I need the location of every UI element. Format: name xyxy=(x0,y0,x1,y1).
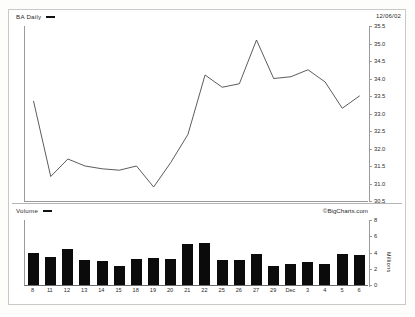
quote-date-label: 12/06/02 xyxy=(376,13,401,19)
price-panel-header: BA Daily 12/06/02 xyxy=(12,12,402,26)
x-axis-tick-label: 25 xyxy=(214,287,230,293)
volume-y-tickmark xyxy=(370,220,372,221)
volume-bar xyxy=(268,266,279,285)
price-y-axis: 35.535.034.534.033.533.032.532.031.531.0… xyxy=(369,26,403,202)
panel-divider xyxy=(12,203,402,204)
price-y-tick-label: 32.5 xyxy=(374,128,385,134)
x-axis-tick-label: 3 xyxy=(300,287,316,293)
x-axis-tick-label: 22 xyxy=(196,287,212,293)
x-axis-tick-label: 18 xyxy=(128,287,144,293)
volume-y-tickmark xyxy=(370,236,372,237)
volume-plot-area xyxy=(24,220,368,286)
volume-bar xyxy=(114,266,125,286)
price-y-tick-label: 31.0 xyxy=(374,181,385,187)
volume-bar xyxy=(337,254,348,285)
price-panel: BA Daily 12/06/02 35.535.034.534.033.533… xyxy=(12,12,402,204)
price-y-tick-label: 35.5 xyxy=(374,23,385,29)
x-axis-tick-label: 20 xyxy=(162,287,178,293)
x-axis-tick-label: 8 xyxy=(25,287,41,293)
volume-bar xyxy=(97,261,108,285)
price-y-tickmark xyxy=(370,26,372,27)
volume-panel: Volume ©BigCharts.com Millions 86420 811… xyxy=(12,206,402,306)
price-y-tickmark xyxy=(370,149,372,150)
volume-y-tick-label: 2 xyxy=(374,266,377,272)
x-axis-tick-label: 14 xyxy=(93,287,109,293)
price-plot-area xyxy=(24,26,368,202)
volume-bar xyxy=(182,244,193,285)
volume-bar xyxy=(319,264,330,285)
line-marker-icon xyxy=(46,16,55,18)
volume-bar xyxy=(234,260,245,285)
volume-bar xyxy=(28,253,39,285)
volume-bar-series xyxy=(25,220,368,285)
x-axis-tick-label: 19 xyxy=(145,287,161,293)
x-axis-tick-label: 21 xyxy=(179,287,195,293)
volume-y-tick-label: 4 xyxy=(374,250,377,256)
price-series-label: BA Daily xyxy=(16,13,55,20)
price-y-tick-label: 33.5 xyxy=(374,93,385,99)
volume-series-label: Volume xyxy=(16,207,52,214)
volume-y-axis: Millions 86420 xyxy=(369,220,403,287)
x-axis-tick-label: 6 xyxy=(351,287,367,293)
x-axis-tick-label: 15 xyxy=(111,287,127,293)
x-axis-date-labels: 81112131415181920212225262729Dec3456 xyxy=(24,287,368,299)
volume-bar xyxy=(62,249,73,285)
bigcharts-stock-chart: BA Daily 12/06/02 35.535.034.534.033.533… xyxy=(0,0,415,317)
price-y-tickmark xyxy=(370,79,372,80)
volume-bar xyxy=(251,254,262,285)
price-y-tick-label: 34.0 xyxy=(374,76,385,82)
volume-axis-unit-label: Millions xyxy=(386,252,392,272)
price-line-series xyxy=(25,26,368,201)
volume-y-tick-label: 0 xyxy=(374,282,377,288)
price-y-tick-label: 33.0 xyxy=(374,111,385,117)
x-axis-tick-label: 5 xyxy=(334,287,350,293)
price-y-tick-label: 34.5 xyxy=(374,58,385,64)
price-series-label-text: BA Daily xyxy=(16,13,41,20)
x-axis-tick-label: 13 xyxy=(76,287,92,293)
price-y-tickmark xyxy=(370,166,372,167)
volume-series-label-text: Volume xyxy=(16,207,38,214)
volume-bar xyxy=(285,264,296,285)
price-line-path xyxy=(34,40,360,187)
volume-bar xyxy=(217,260,228,285)
price-y-tick-label: 35.0 xyxy=(374,41,385,47)
x-axis-tick-label: 27 xyxy=(248,287,264,293)
price-y-tickmark xyxy=(370,131,372,132)
volume-bar xyxy=(79,260,90,285)
volume-bar xyxy=(302,262,313,285)
price-y-tickmark xyxy=(370,114,372,115)
volume-bar xyxy=(354,255,365,285)
x-axis-tick-label: 29 xyxy=(265,287,281,293)
x-axis-tick-label: 4 xyxy=(317,287,333,293)
x-axis-tick-label: 26 xyxy=(231,287,247,293)
price-y-tickmark xyxy=(370,96,372,97)
volume-y-tick-label: 8 xyxy=(374,217,377,223)
line-marker-icon xyxy=(43,210,52,212)
price-y-tickmark xyxy=(370,44,372,45)
x-axis-tick-label: 11 xyxy=(42,287,58,293)
volume-bar xyxy=(148,258,159,285)
price-y-tickmark xyxy=(370,61,372,62)
price-y-tickmark xyxy=(370,201,372,202)
volume-bar xyxy=(45,257,56,285)
price-y-tick-label: 31.5 xyxy=(374,163,385,169)
x-axis-tick-label: 12 xyxy=(59,287,75,293)
volume-y-tick-label: 6 xyxy=(374,233,377,239)
volume-panel-header: Volume ©BigCharts.com xyxy=(12,206,402,219)
volume-bar xyxy=(165,259,176,285)
volume-y-tickmark xyxy=(370,269,372,270)
x-axis-tick-label: Dec xyxy=(282,287,298,293)
volume-y-tickmark xyxy=(370,253,372,254)
price-y-tick-label: 32.0 xyxy=(374,146,385,152)
price-y-tickmark xyxy=(370,184,372,185)
volume-bar xyxy=(131,259,142,285)
volume-bar xyxy=(199,243,210,285)
bigcharts-watermark: ©BigCharts.com xyxy=(323,207,368,214)
volume-y-tickmark xyxy=(370,285,372,286)
